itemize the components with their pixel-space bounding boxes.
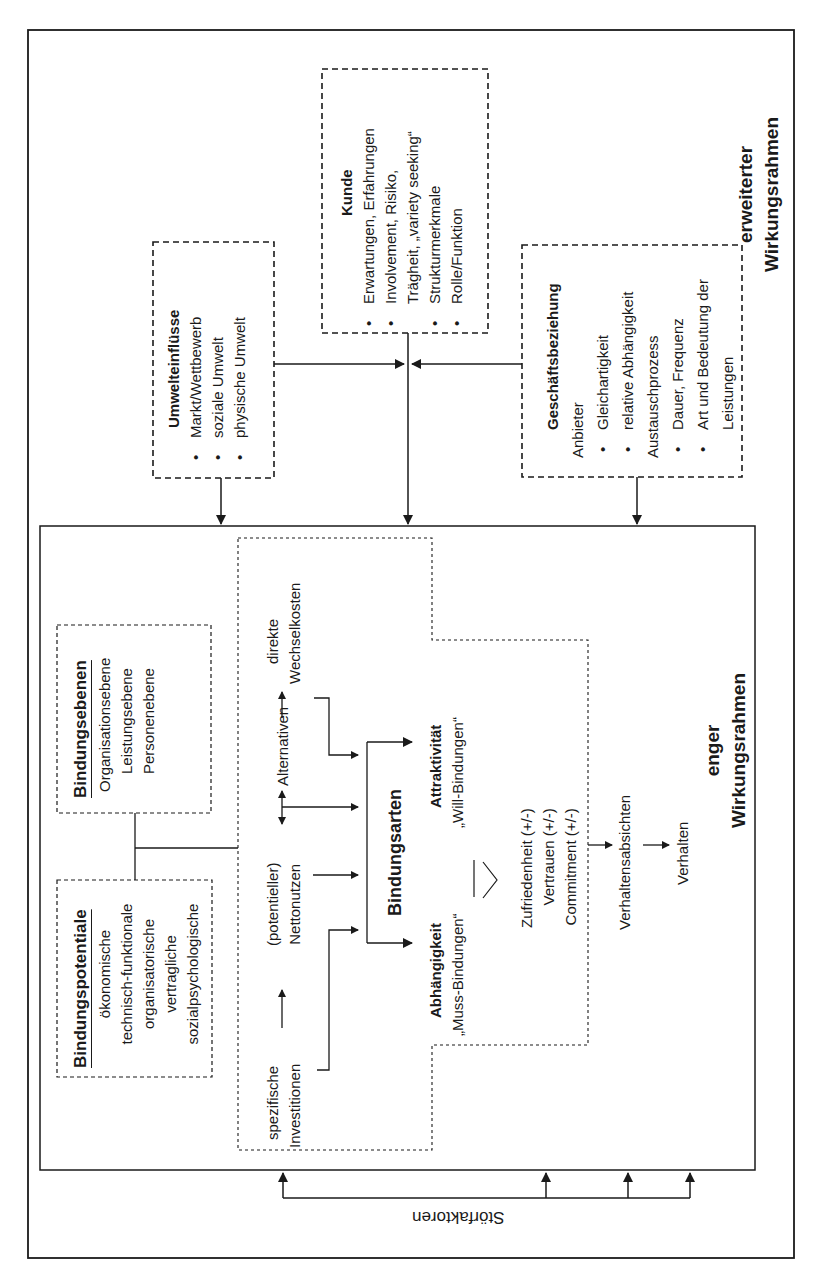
- bindungsarten-title: Bindungsarten: [382, 789, 408, 916]
- umwelt-block: Umwelteinflüsse Markt/Wettbewerb soziale…: [163, 310, 251, 470]
- inner-frame-title: enger Wirkungsrahmen: [700, 673, 752, 828]
- bindungspotentiale-block: Bindungspotentiale ökonomische technisch…: [68, 880, 204, 1068]
- stoerfaktoren-label: Störfaktoren: [412, 1206, 505, 1228]
- mediators-block: Zufriedenheit (+/-) Vertrauen (+/-) Comm…: [516, 808, 582, 928]
- alternativen-label: Alternativen: [272, 707, 294, 786]
- spezifische-investitionen-label: spezifische Investitionen: [262, 1064, 306, 1148]
- kunde-block: Kunde Erwartungen, Erfahrungen Involveme…: [336, 128, 468, 326]
- verhalten-label: Verhalten: [672, 822, 694, 885]
- abhaengigkeit-block: Abhängigkeit „Muss-Bindungen“: [425, 913, 469, 1036]
- attraktivitaet-block: Attraktivität „Will-Bindungen“: [425, 717, 469, 828]
- outer-frame-title: erweiterter Wirkungsrahmen: [733, 117, 785, 272]
- verhaltensabsichten-label: Verhaltensabsichten: [614, 795, 636, 930]
- wechselkosten-label: direkte Wechselkosten: [262, 583, 306, 684]
- bindungsebenen-block: Bindungsebenen Organisationsebene Leistu…: [68, 658, 160, 804]
- nettonutzen-label: (potentieller) Nettonutzen: [262, 863, 306, 946]
- geschaeft-block: Geschäftsbeziehung Anbieter Gleichartigk…: [540, 279, 740, 470]
